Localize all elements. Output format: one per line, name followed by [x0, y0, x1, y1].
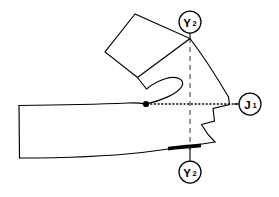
upper-quadrilateral-path [105, 14, 190, 78]
right-arc-path [190, 39, 229, 98]
callout-y2-top[interactable]: Y 2 [179, 11, 201, 33]
callout-j1-subscript: 1 [253, 101, 257, 110]
technical-diagram: Y 2 J 1 Y 2 [0, 0, 279, 197]
callout-j1-right[interactable]: J 1 [239, 93, 261, 115]
callout-y2-bottom-subscript: 2 [193, 169, 197, 178]
callout-y2-top-symbol: Y [183, 17, 191, 29]
body-outline-path [19, 103, 146, 106]
pivot-point [143, 101, 149, 107]
diagram-canvas: Y 2 J 1 Y 2 [0, 0, 279, 197]
callout-y2-top-subscript: 2 [193, 19, 197, 28]
callout-y2-bottom-symbol: Y [183, 167, 191, 179]
inner-hook-path [138, 77, 183, 104]
callout-j1-symbol: J [244, 99, 250, 111]
callout-y2-bottom[interactable]: Y 2 [179, 161, 201, 183]
lower-contour-path [20, 142, 216, 158]
emphasized-edge-segment [168, 145, 201, 148]
left-edge-path [19, 106, 20, 159]
